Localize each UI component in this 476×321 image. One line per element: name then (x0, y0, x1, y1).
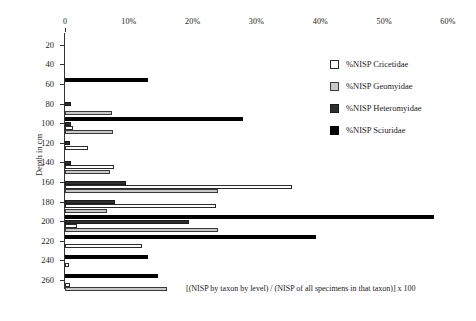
legend-item[interactable]: %NISP Sciuridae (330, 119, 472, 141)
legend-swatch-icon (330, 104, 339, 113)
bar (65, 189, 218, 193)
y-axis-tick-label: 240 (14, 255, 54, 265)
y-axis-tick-label: 80 (14, 99, 54, 109)
bar (65, 170, 110, 174)
y-axis-tick-label: 120 (14, 138, 54, 148)
y-axis-tick-mark (60, 260, 65, 261)
legend-item[interactable]: %NISP Geomyidae (330, 75, 472, 97)
legend-item[interactable]: %NISP Heteromyidae (330, 97, 472, 119)
legend-swatch-icon (330, 82, 339, 91)
bar (65, 287, 167, 291)
legend-label: %NISP Sciuridae (346, 125, 405, 135)
bar (65, 244, 142, 248)
chart-root: Depth in cm %NISP Cricetidae%NISP Geomyi… (0, 0, 476, 321)
y-axis-tick-label: 20 (14, 40, 54, 50)
legend-label: %NISP Geomyidae (346, 81, 413, 91)
legend-label: %NISP Heteromyidae (346, 103, 421, 113)
y-axis-tick-label: 40 (14, 59, 54, 69)
bar (65, 209, 107, 213)
y-axis-tick-mark (60, 45, 65, 46)
x-axis-tick-label: 40% (313, 17, 328, 26)
y-axis-tick-label: 200 (14, 216, 54, 226)
y-axis-tick-label: 220 (14, 236, 54, 246)
x-axis-tick-label: 30% (249, 17, 264, 26)
legend-item[interactable]: %NISP Cricetidae (330, 53, 472, 75)
y-axis-tick-mark (60, 280, 65, 281)
bar (65, 146, 88, 150)
y-axis-tick-label: 140 (14, 157, 54, 167)
y-axis-tick-label: 100 (14, 118, 54, 128)
bar (65, 220, 189, 224)
y-axis-tick-label: 260 (14, 275, 54, 285)
chart-annotation: [(NISP by taxon by level) / (NISP of all… (186, 284, 416, 293)
x-axis-tick-mark (65, 28, 66, 32)
bar (65, 102, 71, 106)
y-axis-tick-label: 60 (14, 79, 54, 89)
bar (65, 274, 158, 278)
x-axis-tick-label: 60% (440, 17, 455, 26)
bar (65, 263, 69, 267)
x-axis-tick-label: 10% (121, 17, 136, 26)
x-axis-tick-label: 20% (185, 17, 200, 26)
bar (65, 235, 316, 239)
x-axis-tick-label: 50% (377, 17, 392, 26)
y-axis-tick-label: 160 (14, 177, 54, 187)
chart-legend: %NISP Cricetidae%NISP Geomyidae%NISP Het… (330, 53, 472, 141)
x-axis-tick-label: 0 (63, 17, 67, 26)
legend-label: %NISP Cricetidae (346, 59, 408, 69)
bar (65, 255, 148, 259)
bar (65, 78, 148, 82)
bar (65, 111, 112, 115)
bar (65, 117, 243, 121)
y-axis-tick-label: 180 (14, 197, 54, 207)
y-axis-tick-mark (60, 84, 65, 85)
legend-swatch-icon (330, 126, 339, 135)
bar (65, 228, 218, 232)
legend-swatch-icon (330, 60, 339, 69)
y-axis-tick-mark (60, 241, 65, 242)
bar (65, 130, 113, 134)
y-axis-tick-mark (60, 64, 65, 65)
